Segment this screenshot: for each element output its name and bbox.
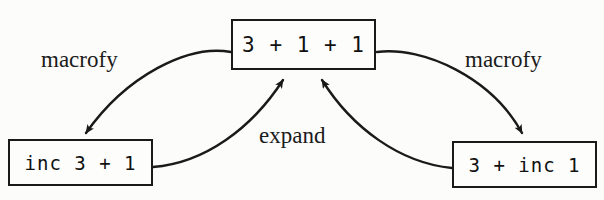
edge-label-macrofy-left: macrofy xyxy=(41,47,118,73)
edge-label-macrofy-right: macrofy xyxy=(465,47,542,73)
rewrite-graph-diagram: 3 + 1 + 1 inc 3 + 1 3 + inc 1 macrofy ma… xyxy=(0,0,604,200)
node-3-plus-inc-1: 3 + inc 1 xyxy=(452,141,597,188)
node-3-plus-1-plus-1: 3 + 1 + 1 xyxy=(231,19,376,70)
edge-label-expand: expand xyxy=(259,123,325,149)
node-inc-3-plus-1: inc 3 + 1 xyxy=(8,139,153,186)
edge-right-to-top xyxy=(322,80,452,168)
